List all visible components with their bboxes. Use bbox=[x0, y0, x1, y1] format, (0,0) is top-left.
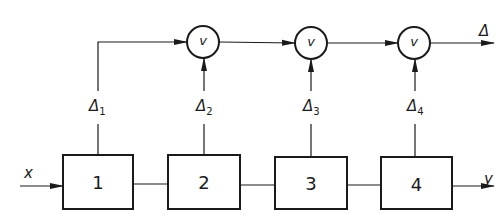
or-gate-1-label: v bbox=[193, 33, 213, 48]
block-4-label: 4 bbox=[381, 174, 452, 195]
block-2-label: 2 bbox=[168, 172, 240, 193]
signal-2-label: Δ2 bbox=[196, 97, 213, 117]
signal-3-label: Δ3 bbox=[303, 97, 320, 117]
signal-1-label: Δ1 bbox=[89, 97, 106, 117]
output-label: y bbox=[484, 170, 493, 188]
or-gate-3-label: v bbox=[404, 34, 424, 49]
input-label: x bbox=[24, 164, 33, 182]
signal-1-line bbox=[98, 42, 187, 91]
final-output-label: Δ bbox=[479, 22, 489, 40]
gate-link-1-2 bbox=[219, 42, 295, 43]
or-gate-2-label: v bbox=[301, 34, 321, 49]
block-1-label: 1 bbox=[63, 172, 133, 193]
block-3-label: 3 bbox=[275, 173, 347, 194]
signal-4-label: Δ4 bbox=[407, 97, 424, 117]
